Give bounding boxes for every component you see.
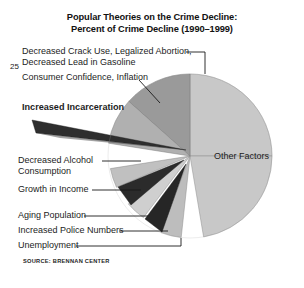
callout-label-increased-police-numbers: Increased Police Numbers — [18, 225, 124, 236]
callout-label-unemployment: Unemployment — [18, 240, 79, 251]
callout-label-crack-use-line-2: Decreased Lead in Gasoline — [22, 57, 136, 68]
leader-line-unemployment — [76, 238, 181, 246]
source-note: SOURCE: BRENNAN CENTER — [23, 258, 110, 264]
callout-label-alcohol-line-2: Consumption — [18, 166, 71, 177]
callout-label-alcohol-line-1: Decreased Alcohol — [18, 155, 93, 166]
callout-label-growth-in-income: Growth in Income — [18, 184, 89, 195]
crime-decline-pie-figure: Popular Theories on the Crime Decline: P… — [0, 0, 304, 288]
pie-slice-other-factors-lower[interactable] — [190, 156, 272, 237]
callout-label-aging-population: Aging Population — [18, 210, 86, 221]
pie-slice-label-other-factors: Other Factors — [214, 151, 270, 161]
callout-label-consumer-confidence: Consumer Confidence, Inflation — [22, 72, 148, 83]
callout-label-increased-incarceration: Increased Incarceration — [22, 102, 124, 113]
pie-slice-other-factors-main[interactable] — [190, 74, 272, 156]
callout-label-crack-use-line-1: Decreased Crack Use, Legalized Abortion, — [22, 46, 192, 57]
